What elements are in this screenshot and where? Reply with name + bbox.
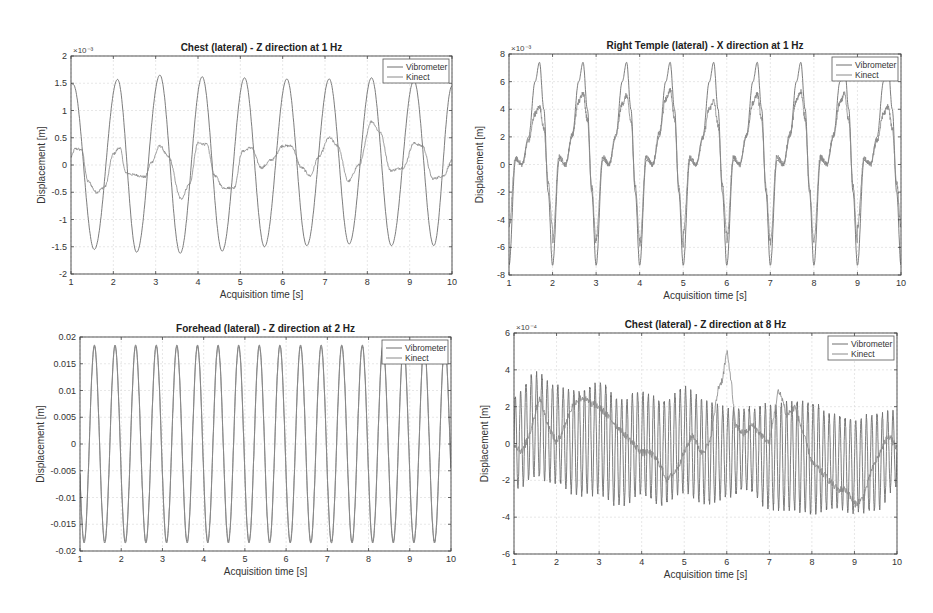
y-tick-label: -0.01 — [55, 493, 76, 503]
y-tick-label: 2 — [500, 132, 505, 142]
x-tick-label: 3 — [594, 278, 599, 288]
x-tick-label: 2 — [550, 278, 555, 288]
y-tick-label: -4 — [497, 215, 505, 225]
y-tick-label: -1 — [59, 215, 67, 225]
y-tick-label: 1 — [62, 106, 67, 116]
y-tick-label: -6 — [502, 549, 510, 559]
x-tick-label: 5 — [682, 557, 687, 567]
y-exponent-label: ×10⁻³ — [73, 46, 94, 55]
y-tick-label: -0.015 — [50, 519, 76, 529]
y-tick-label: 0.015 — [53, 359, 76, 369]
x-tick-label: 5 — [238, 277, 243, 287]
x-tick-label: 5 — [242, 554, 247, 564]
x-tick-label: 2 — [119, 554, 124, 564]
legend-entry-kinect: Kinect — [851, 349, 875, 359]
x-tick-label: 1 — [511, 557, 516, 567]
y-tick-label: -2 — [497, 187, 505, 197]
subplot-forehead-2hz: 12345678910-0.02-0.015-0.01-0.00500.0050… — [35, 323, 456, 577]
y-axis-label: Displacement [m] — [35, 405, 46, 482]
x-tick-label: 9 — [855, 278, 860, 288]
y-tick-label: 0 — [500, 160, 505, 170]
x-tick-label: 6 — [280, 277, 285, 287]
subplot-title: Right Temple (lateral) - X direction at … — [606, 40, 803, 51]
y-tick-label: -1.5 — [51, 242, 67, 252]
y-axis-label: Displacement [m] — [479, 405, 490, 482]
y-tick-label: -0.02 — [55, 546, 76, 556]
x-tick-label: 3 — [597, 557, 602, 567]
legend-entry-vibrometer: Vibrometer — [405, 343, 447, 353]
x-axis-label: Acquisition time [s] — [664, 569, 748, 580]
x-tick-label: 1 — [506, 278, 511, 288]
y-tick-label: 2 — [505, 402, 510, 412]
x-tick-label: 10 — [892, 557, 902, 567]
x-tick-label: 7 — [322, 277, 327, 287]
x-tick-label: 6 — [284, 554, 289, 564]
x-tick-label: 8 — [809, 557, 814, 567]
x-tick-label: 8 — [366, 554, 371, 564]
y-tick-label: -2 — [59, 269, 67, 279]
x-tick-label: 9 — [407, 277, 412, 287]
y-axis-label: Displacement [m] — [474, 126, 485, 203]
legend-entry-vibrometer: Vibrometer — [851, 339, 893, 349]
x-tick-label: 8 — [811, 278, 816, 288]
x-tick-label: 2 — [111, 277, 116, 287]
legend-entry-vibrometer: Vibrometer — [406, 62, 448, 72]
legend: VibrometerKinect — [382, 340, 448, 364]
y-tick-label: 4 — [505, 365, 510, 375]
y-tick-label: 0 — [505, 439, 510, 449]
x-tick-label: 4 — [637, 278, 642, 288]
y-tick-label: -6 — [497, 242, 505, 252]
y-tick-label: 8 — [500, 49, 505, 59]
x-tick-label: 1 — [77, 554, 82, 564]
x-tick-label: 3 — [160, 554, 165, 564]
x-tick-label: 7 — [767, 557, 772, 567]
x-tick-label: 4 — [195, 277, 200, 287]
y-tick-label: 2 — [62, 51, 67, 61]
y-tick-label: -0.005 — [50, 466, 76, 476]
legend-entry-kinect: Kinect — [406, 72, 430, 82]
y-tick-label: 6 — [505, 328, 510, 338]
x-axis-label: Acquisition time [s] — [220, 289, 304, 300]
x-tick-label: 7 — [768, 278, 773, 288]
x-tick-label: 4 — [201, 554, 206, 564]
y-tick-label: -2 — [502, 475, 510, 485]
x-axis-label: Acquisition time [s] — [224, 566, 308, 577]
x-tick-label: 7 — [325, 554, 330, 564]
subplot-title: Chest (lateral) - Z direction at 8 Hz — [625, 319, 787, 330]
y-tick-label: 0 — [62, 160, 67, 170]
x-tick-label: 1 — [68, 277, 73, 287]
subplot-chest-8hz: 12345678910-6-4-20246×10⁻⁴Chest (lateral… — [479, 319, 902, 580]
legend: VibrometerKinect — [832, 57, 898, 81]
legend: VibrometerKinect — [383, 59, 449, 83]
legend: VibrometerKinect — [828, 336, 894, 360]
x-tick-label: 10 — [447, 277, 457, 287]
y-exponent-label: ×10⁻³ — [511, 44, 532, 53]
y-tick-label: 0.005 — [53, 412, 76, 422]
y-tick-label: -0.5 — [51, 187, 67, 197]
y-tick-label: 6 — [500, 77, 505, 87]
x-axis-label: Acquisition time [s] — [663, 290, 747, 301]
y-tick-label: 4 — [500, 104, 505, 114]
x-tick-label: 10 — [896, 278, 906, 288]
x-tick-label: 8 — [365, 277, 370, 287]
legend-entry-vibrometer: Vibrometer — [855, 60, 897, 70]
x-tick-label: 9 — [852, 557, 857, 567]
x-tick-label: 4 — [639, 557, 644, 567]
legend-entry-kinect: Kinect — [855, 70, 879, 80]
subplot-chest-1hz: 12345678910-2-1.5-1-0.500.511.52×10⁻³Che… — [36, 42, 457, 300]
legend-entry-kinect: Kinect — [405, 353, 429, 363]
x-tick-label: 6 — [724, 278, 729, 288]
y-tick-label: 0 — [71, 439, 76, 449]
x-tick-label: 3 — [153, 277, 158, 287]
x-tick-label: 5 — [681, 278, 686, 288]
y-tick-label: 1.5 — [54, 78, 67, 88]
figure-canvas: 12345678910-2-1.5-1-0.500.511.52×10⁻³Che… — [0, 0, 933, 613]
y-tick-label: 0.5 — [54, 133, 67, 143]
y-axis-label: Displacement [m] — [36, 126, 47, 203]
y-tick-label: -4 — [502, 512, 510, 522]
subplot-temple-1hz: 12345678910-8-6-4-202468×10⁻³Right Templ… — [474, 40, 906, 301]
subplot-title: Chest (lateral) - Z direction at 1 Hz — [181, 42, 343, 53]
y-tick-label: 0.02 — [58, 332, 76, 342]
x-tick-label: 9 — [407, 554, 412, 564]
x-tick-label: 6 — [724, 557, 729, 567]
